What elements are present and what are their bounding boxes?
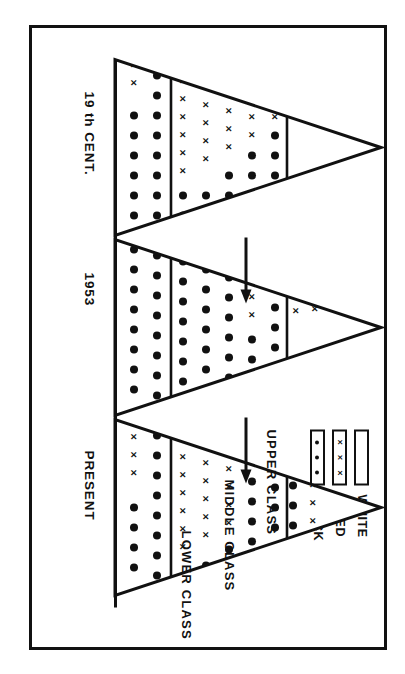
svg-text:×: × [246,95,258,101]
triangle-1953-fill: × ×× ×× ×× ×× [105,227,393,427]
figure-page: WHITE × × × MIXED BLACK [0,0,405,674]
svg-text:×: × [177,489,189,495]
svg-text:×: × [200,101,212,107]
svg-text:×: × [246,257,258,263]
svg-text:×: × [269,81,281,87]
svg-text:×: × [200,65,212,71]
svg-text:×: × [246,113,258,119]
svg-text:×: × [223,465,235,471]
svg-text:×: × [223,483,235,489]
svg-text:×: × [177,167,189,173]
baseline-axis [114,59,117,607]
svg-text:×: × [128,79,140,85]
time-label-1953: 1953 [82,272,97,306]
triangle-present-fill: ×× ×× × [105,407,393,607]
svg-text:×: × [246,131,258,137]
svg-text:×: × [223,125,235,131]
svg-text:×: × [223,501,235,507]
svg-text:×: × [128,469,140,475]
svg-text:×: × [307,499,319,505]
svg-text:×: × [200,119,212,125]
svg-text:×: × [177,59,189,65]
svg-text:×: × [200,137,212,143]
figure-frame: WHITE × × × MIXED BLACK [29,25,387,650]
svg-text:×: × [177,543,189,549]
triangle-19th-cent-fill: ×× × ×× ×× ×× ×× × ×× [105,47,393,247]
svg-text:×: × [128,433,140,439]
svg-text:×: × [177,149,189,155]
triangle-1953: × ×× ×× ×× ×× [103,227,393,427]
svg-text:×: × [246,293,258,299]
svg-text:×: × [269,261,281,267]
time-label-19th-cent: 19 th CENT. [82,91,97,175]
svg-text:×: × [223,143,235,149]
svg-text:×: × [177,417,189,423]
svg-text:×: × [128,451,140,457]
svg-text:×: × [307,517,319,523]
svg-text:×: × [223,429,235,435]
svg-text:×: × [290,307,302,313]
svg-text:×: × [200,459,212,465]
svg-text:×: × [177,507,189,513]
svg-text:×: × [200,495,212,501]
svg-text:×: × [200,155,212,161]
svg-text:×: × [223,71,235,77]
svg-text:×: × [200,423,212,429]
svg-text:×: × [200,477,212,483]
figure-stage: WHITE × × × MIXED BLACK [29,25,387,650]
svg-text:×: × [246,275,258,281]
svg-text:×: × [177,95,189,101]
svg-text:×: × [269,97,281,103]
svg-text:×: × [177,525,189,531]
svg-text:×: × [246,311,258,317]
svg-text:×: × [246,77,258,83]
svg-text:×: × [128,415,140,421]
svg-text:×: × [200,441,212,447]
svg-text:×: × [223,447,235,453]
time-label-present: PRESENT [82,450,97,520]
svg-text:×: × [177,131,189,137]
svg-text:×: × [223,519,235,525]
svg-text:×: × [269,279,281,285]
triangle-present: ×× ×× × [103,407,393,607]
svg-text:×: × [177,471,189,477]
svg-text:×: × [177,453,189,459]
svg-text:×: × [307,535,319,541]
svg-text:×: × [223,107,235,113]
triangle-19th-cent: ×× × ×× ×× ×× ×× × ×× [103,47,393,247]
svg-text:×: × [177,113,189,119]
svg-text:×: × [307,463,319,469]
svg-text:×: × [200,531,212,537]
svg-text:×: × [290,289,302,295]
svg-text:×: × [200,513,212,519]
